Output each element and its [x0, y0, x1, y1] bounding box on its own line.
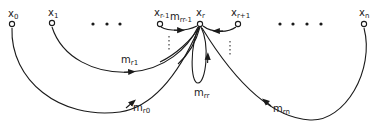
ellipsis-dot — [319, 22, 322, 25]
edge-x0-arrow — [126, 102, 133, 108]
label-edge-mrr: mrr — [194, 87, 210, 100]
node-x0 — [9, 21, 14, 26]
state-transition-diagram: x0 x1 xr-1 xr xr+1 xn mr1 mr0 mrr-1 mrr … — [0, 0, 384, 126]
label-node-x0: x0 — [8, 8, 18, 21]
edge-x1-arrow — [124, 72, 132, 73]
ellipsis-dot — [118, 22, 121, 25]
edge-xn-to-xr — [202, 28, 366, 120]
ellipsis-dot — [91, 22, 94, 25]
node-xr-1 — [157, 21, 162, 26]
ellipsis-dot — [291, 22, 294, 25]
ellipsis-dot — [305, 22, 308, 25]
label-node-x1: x1 — [48, 7, 58, 20]
label-node-xr+1: xr+1 — [231, 7, 250, 20]
label-edge-mrr-1: mrr-1 — [170, 11, 192, 24]
edge-x1-to-xr — [52, 27, 198, 72]
label-node-xr-1: xr-1 — [154, 7, 169, 20]
node-xn — [361, 21, 366, 26]
ellipsis-dot — [105, 22, 108, 25]
label-node-xn: xn — [359, 7, 369, 20]
label-node-xr: xr — [196, 7, 205, 20]
node-x1 — [49, 20, 54, 25]
node-xr+1 — [235, 21, 240, 26]
label-edge-mr1: mr1 — [121, 54, 138, 67]
ellipsis-dot — [278, 22, 281, 25]
label-edge-mrn: mrn — [273, 103, 290, 116]
node-xr — [197, 21, 202, 26]
edge-xr-1-to-xr — [161, 26, 197, 30]
label-edge-mr0: mr0 — [133, 102, 150, 115]
edge-self-loop-xr — [192, 27, 206, 83]
